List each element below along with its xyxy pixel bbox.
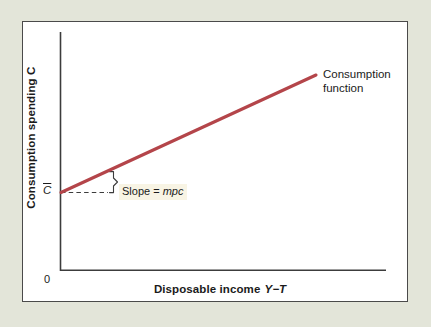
intercept-tick-label: C: [43, 184, 51, 197]
slope-annotation-plain: Slope =: [122, 185, 163, 197]
plot-surface: [0, 0, 431, 327]
x-axis-label-italic: Y−T: [264, 283, 286, 295]
intercept-symbol: C: [43, 184, 51, 196]
series-label: Consumptionfunction: [323, 67, 409, 96]
origin-label: 0: [44, 273, 50, 286]
figure-root: Consumption spending C Disposable income…: [0, 0, 431, 327]
x-axis-label-plain: Disposable income: [154, 283, 261, 295]
series-label-line1: Consumption: [323, 68, 391, 80]
slope-annotation-italic: mpc: [163, 185, 184, 197]
slope-annotation: Slope = mpc: [119, 184, 187, 200]
x-axis-label: Disposable incomeY−T: [60, 283, 380, 296]
slope-bracket: [110, 172, 118, 193]
y-axis-label: Consumption spending C: [25, 43, 38, 233]
consumption-function-line: [61, 75, 316, 193]
series-label-line2: function: [323, 82, 363, 94]
